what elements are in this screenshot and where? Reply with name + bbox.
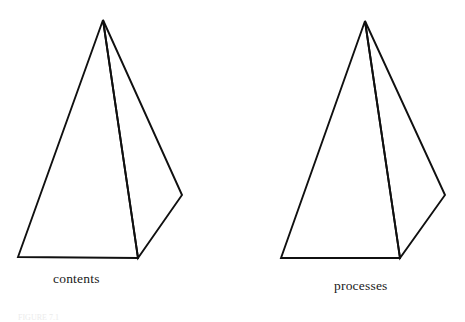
contents-pyramid-label: contents [53, 272, 100, 286]
processes-pyramid-label: processes [334, 279, 388, 293]
contents-pyramid [18, 20, 182, 258]
figure-caption: FIGURE 7.1 [18, 314, 448, 322]
processes-pyramid [281, 21, 445, 258]
